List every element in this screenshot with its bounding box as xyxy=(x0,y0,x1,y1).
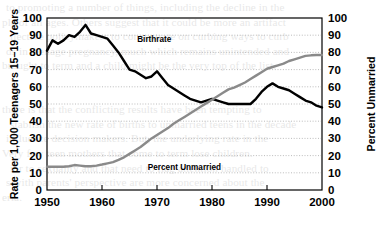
y-right-label-50: 50 xyxy=(328,98,341,110)
y-left-label-40: 40 xyxy=(29,115,42,127)
y-axis-left-title: Rate per 1,000 Teenagers 15–19 Years xyxy=(8,9,20,200)
y-left-label-70: 70 xyxy=(29,64,42,76)
series-label-birthrate: Birthrate xyxy=(137,35,172,44)
y-right-label-30: 30 xyxy=(328,132,341,144)
y-left-label-20: 20 xyxy=(29,150,42,162)
line-chart: 0102030405060708090100 01020304050607080… xyxy=(0,0,384,228)
y-left-label-10: 10 xyxy=(29,167,42,179)
chart-background xyxy=(0,0,384,228)
x-label-1970: 1970 xyxy=(144,196,170,208)
teen-birthrate-figure: to promoting a number of things, includi… xyxy=(0,0,384,228)
y-left-label-0: 0 xyxy=(36,184,42,196)
y-right-label-0: 0 xyxy=(328,184,334,196)
y-right-label-80: 80 xyxy=(328,46,341,58)
y-left-label-30: 30 xyxy=(29,132,42,144)
y-right-label-40: 40 xyxy=(328,115,341,127)
x-label-1950: 1950 xyxy=(34,196,60,208)
y-right-label-90: 90 xyxy=(328,29,341,41)
x-label-2000: 2000 xyxy=(309,196,335,208)
y-right-label-70: 70 xyxy=(328,64,341,76)
y-right-label-60: 60 xyxy=(328,81,341,93)
x-label-1960: 1960 xyxy=(89,196,115,208)
y-right-label-10: 10 xyxy=(328,167,341,179)
y-left-label-80: 80 xyxy=(29,46,42,58)
x-label-1990: 1990 xyxy=(254,196,280,208)
series-label-percent-unmarried: Percent Unmarried xyxy=(148,163,221,172)
y-axis-right-title: Percent Unmarried xyxy=(365,57,377,152)
y-left-label-60: 60 xyxy=(29,81,42,93)
y-right-label-20: 20 xyxy=(328,150,341,162)
y-left-label-50: 50 xyxy=(29,98,42,110)
x-label-1980: 1980 xyxy=(199,196,225,208)
y-left-label-90: 90 xyxy=(29,29,42,41)
y-left-label-100: 100 xyxy=(23,12,42,24)
y-right-label-100: 100 xyxy=(328,12,347,24)
